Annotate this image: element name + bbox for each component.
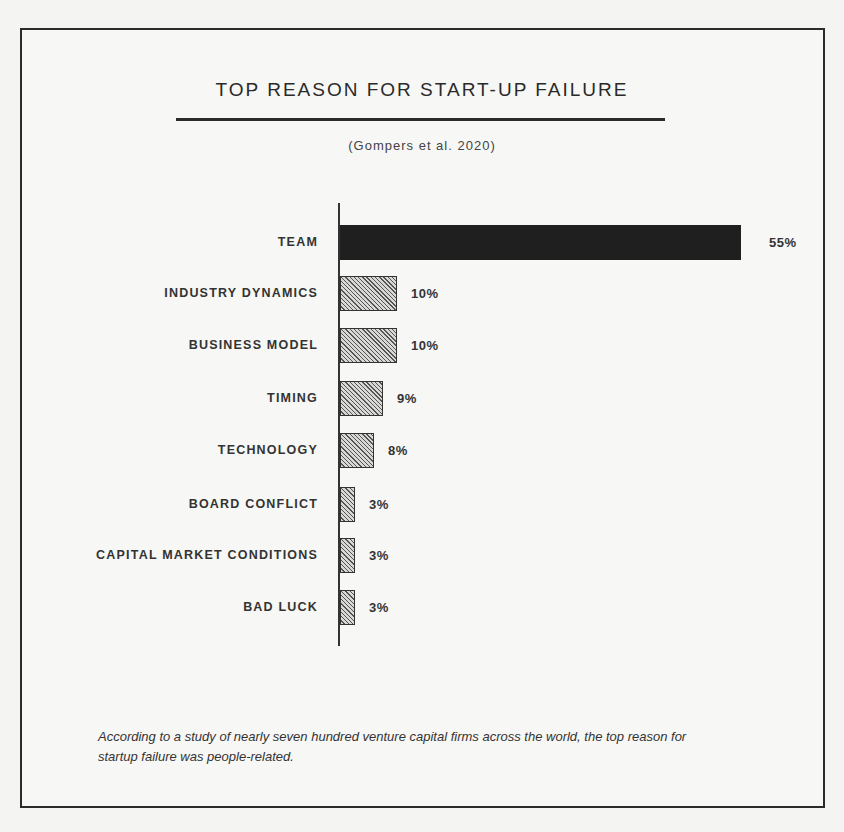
- category-label: BUSINESS MODEL: [189, 328, 318, 363]
- bar-row: BUSINESS MODEL10%: [0, 328, 844, 363]
- chart-title: TOP REASON FOR START-UP FAILURE: [0, 79, 844, 101]
- bar-hatched: [340, 381, 383, 416]
- chart-subtitle: (Gompers et al. 2020): [0, 138, 844, 153]
- bar-hatched: [340, 276, 397, 311]
- category-label: BOARD CONFLICT: [189, 487, 318, 522]
- category-label: TECHNOLOGY: [218, 433, 318, 468]
- category-label: TEAM: [278, 225, 318, 260]
- category-label: CAPITAL MARKET CONDITIONS: [96, 538, 318, 573]
- bar-row: BOARD CONFLICT3%: [0, 487, 844, 522]
- value-label: 3%: [369, 538, 389, 573]
- value-label: 3%: [369, 487, 389, 522]
- bar-row: INDUSTRY DYNAMICS10%: [0, 276, 844, 311]
- bar-row: TECHNOLOGY8%: [0, 433, 844, 468]
- bar-hatched: [340, 487, 355, 522]
- value-label: 9%: [397, 381, 417, 416]
- category-label: BAD LUCK: [243, 590, 318, 625]
- category-label: TIMING: [267, 381, 318, 416]
- chart-caption: According to a study of nearly seven hun…: [98, 727, 718, 767]
- value-label: 55%: [769, 225, 797, 260]
- bar-row: CAPITAL MARKET CONDITIONS3%: [0, 538, 844, 573]
- value-label: 10%: [411, 328, 439, 363]
- bar-hatched: [340, 590, 355, 625]
- bar-row: TEAM55%: [0, 225, 844, 260]
- bar-row: BAD LUCK3%: [0, 590, 844, 625]
- title-underline: [176, 118, 665, 121]
- value-label: 3%: [369, 590, 389, 625]
- bar-row: TIMING9%: [0, 381, 844, 416]
- bar-hatched: [340, 328, 397, 363]
- value-label: 8%: [388, 433, 408, 468]
- bar-hatched: [340, 433, 374, 468]
- bar-hatched: [340, 538, 355, 573]
- category-label: INDUSTRY DYNAMICS: [164, 276, 318, 311]
- bar-highlight: [340, 225, 741, 260]
- y-axis-line: [338, 203, 340, 646]
- value-label: 10%: [411, 276, 439, 311]
